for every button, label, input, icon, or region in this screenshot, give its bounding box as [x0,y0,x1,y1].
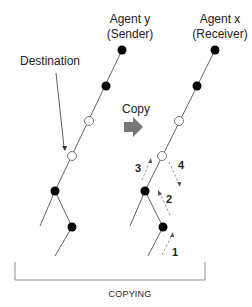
sender-node-empty [85,117,94,126]
receiver-node-filled [159,223,168,232]
sender-node-filled [102,82,111,91]
step-1-label: 1 [172,246,178,258]
step-3-arrow [142,161,150,180]
sender-node-filled [68,223,77,232]
destination-node [68,152,77,161]
sender-title: Agent y [100,12,160,27]
copying-bracket [15,262,205,280]
sender-node-filled [118,46,127,55]
sender-nodes [51,46,127,232]
destination-arrowhead [62,146,67,151]
step-3-label: 3 [135,162,141,174]
step-1-arrow [162,235,172,255]
receiver-nodes [141,46,220,232]
receiver-node-filled [193,82,202,91]
destination-pointer [56,73,64,147]
step-4-label: 4 [178,159,184,171]
step-2-label: 2 [166,193,172,205]
copy-arrow-icon [124,117,143,137]
receiver-subtitle: (Receiver) [180,27,252,42]
receiver-tree [130,50,215,256]
sender-subtitle: (Sender) [95,27,165,42]
sender-node-filled [51,187,60,196]
receiver-node-empty [158,152,167,161]
copying-diagram [0,0,252,307]
receiver-node-filled [211,46,220,55]
receiver-title: Agent x [190,12,250,27]
receiver-node-empty [175,117,184,126]
step-arrows [142,158,181,255]
copy-label: Copy [122,102,150,117]
sender-tree [40,50,122,256]
copying-caption: COPYING [80,287,180,302]
destination-label: Destination [20,54,80,69]
receiver-node-filled [141,187,150,196]
